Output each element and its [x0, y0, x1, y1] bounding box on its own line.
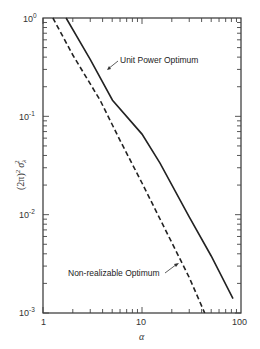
chart: 100 10-1 10-2 10-3 1 10 100 α (2π)2σλ2 U… [0, 0, 260, 349]
ytick-label-1e-2: 10-2 [19, 208, 35, 220]
annotation-label-nonrealizable: Non-realizable Optimum [68, 268, 160, 278]
annotation-nonrealizable: Non-realizable Optimum [68, 263, 179, 278]
ytick-label-1e0: 100 [23, 12, 37, 24]
annotation-unit-power: Unit Power Optimum [107, 55, 198, 70]
xtick-label-10: 10 [136, 317, 146, 327]
x-tick-labels: 1 10 100 [41, 317, 247, 327]
xtick-label-100: 100 [232, 317, 247, 327]
x-axis-label: α [139, 331, 145, 342]
xtick-label-1: 1 [41, 317, 46, 327]
ytick-label-1e-1: 10-1 [19, 110, 35, 122]
ytick-label-1e-3: 10-3 [19, 306, 35, 318]
arrowhead-icon [174, 263, 179, 267]
y-axis-label: (2π)2σλ2 [13, 160, 28, 190]
annotation-label-unit-power: Unit Power Optimum [120, 55, 198, 65]
